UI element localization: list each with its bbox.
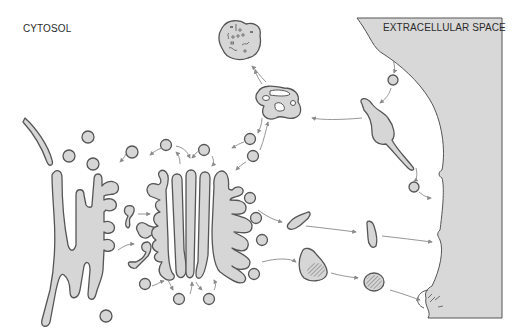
secretory-vesicle bbox=[409, 182, 419, 192]
early-endosome bbox=[361, 99, 414, 170]
golgi-vesicle bbox=[249, 269, 260, 280]
endoplasmic-reticulum bbox=[42, 171, 119, 327]
endocytic-vesicle bbox=[388, 75, 398, 85]
extracellular-space-label: EXTRACELLULAR SPACE bbox=[383, 22, 506, 33]
transport-vesicle bbox=[126, 146, 138, 158]
transport-vesicle bbox=[140, 279, 151, 290]
er-vesicle bbox=[82, 131, 94, 143]
granule-core bbox=[366, 275, 382, 289]
cytosol-label: CYTOSOL bbox=[23, 23, 71, 34]
endosome-lumen bbox=[291, 101, 296, 106]
golgi-cisterna bbox=[186, 170, 196, 278]
vtc-tubule bbox=[128, 242, 151, 268]
er-vesicle bbox=[87, 158, 99, 170]
golgi-cis-network bbox=[147, 170, 174, 280]
granule-core bbox=[307, 263, 325, 277]
transport-vesicle bbox=[199, 145, 210, 156]
secretory-vesicle bbox=[287, 212, 310, 229]
nuclear-envelope bbox=[23, 118, 52, 165]
vtc-tubule bbox=[125, 206, 135, 228]
pathway-diagram bbox=[0, 0, 520, 335]
endosome-lumen bbox=[263, 96, 270, 101]
transport-vesicle bbox=[248, 151, 259, 162]
lysosome bbox=[219, 21, 260, 60]
transport-vesicle bbox=[161, 140, 172, 151]
secretory-vesicle bbox=[367, 221, 377, 247]
golgi-trans-network bbox=[212, 171, 252, 283]
extracellular-space bbox=[357, 18, 502, 318]
golgi-cisterna bbox=[172, 174, 186, 278]
transport-vesicle bbox=[204, 294, 215, 305]
golgi-vesicle bbox=[257, 235, 268, 246]
golgi-vesicle bbox=[245, 193, 256, 204]
golgi-vesicle bbox=[251, 213, 262, 224]
er-vesicle bbox=[63, 150, 75, 162]
transport-vesicle bbox=[174, 294, 185, 305]
golgi-cisterna bbox=[196, 172, 210, 278]
transport-vesicle bbox=[245, 134, 256, 145]
er-vesicle bbox=[100, 310, 112, 322]
